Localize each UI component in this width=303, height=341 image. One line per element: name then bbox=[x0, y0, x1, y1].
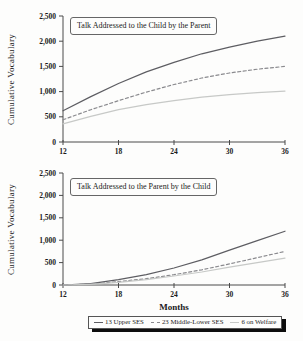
y-tick-label: 2,000 bbox=[39, 191, 56, 200]
legend-label-welfare: 6 on Welfare bbox=[241, 319, 276, 326]
y-tick-label: 2,000 bbox=[39, 37, 56, 46]
chart-title-bottom: Talk Addressed to the Parent by the Chil… bbox=[70, 178, 217, 196]
x-tick-label: 24 bbox=[170, 290, 178, 299]
series-line-23-middle-lower-ses bbox=[63, 251, 285, 285]
legend-line-sample-upper-ses-icon bbox=[94, 322, 103, 323]
series-line-6-on-welfare bbox=[63, 91, 285, 124]
x-tick-label: 30 bbox=[226, 147, 234, 156]
x-tick-label: 18 bbox=[115, 147, 123, 156]
y-axis-label-top: Cumulative Vocabulary bbox=[5, 0, 18, 160]
y-tick-label: 1,500 bbox=[39, 213, 56, 222]
series-line-13-upper-ses bbox=[63, 231, 285, 285]
x-tick-label: 12 bbox=[59, 147, 67, 156]
x-tick-label: 36 bbox=[281, 290, 289, 299]
series-line-6-on-welfare bbox=[63, 258, 285, 285]
x-tick-label: 24 bbox=[170, 147, 178, 156]
y-axis-label-bottom: Cumulative Vocabulary bbox=[5, 150, 18, 310]
legend-item-upper-ses: 13 Upper SES bbox=[94, 319, 144, 326]
x-tick-label: 36 bbox=[281, 147, 289, 156]
y-tick-label: 1,000 bbox=[39, 236, 56, 245]
x-tick-label: 30 bbox=[226, 290, 234, 299]
series-line-23-middle-lower-ses bbox=[63, 66, 285, 119]
legend-label-middle-lower-ses: 23 Middle-Lower SES bbox=[162, 319, 224, 326]
y-tick-label: 500 bbox=[45, 112, 57, 121]
y-tick-label: 500 bbox=[45, 258, 57, 267]
x-tick-label: 12 bbox=[59, 290, 67, 299]
y-tick-label: 1,000 bbox=[39, 87, 56, 96]
legend-line-sample-middle-lower-ses-icon bbox=[151, 322, 160, 323]
y-tick-label: 2,500 bbox=[39, 12, 56, 21]
legend-line-sample-welfare-icon bbox=[230, 322, 239, 323]
x-tick-label: 18 bbox=[115, 290, 123, 299]
y-tick-label: 0 bbox=[52, 281, 56, 290]
x-axis-label-months: Months bbox=[63, 302, 285, 312]
vocabulary-growth-figure: 05001,0001,5002,0002,5001218243036 Cumul… bbox=[0, 0, 303, 341]
chart-title-top: Talk Addressed to the Child by the Paren… bbox=[70, 17, 217, 35]
legend-item-welfare: 6 on Welfare bbox=[230, 319, 276, 326]
y-tick-label: 0 bbox=[52, 138, 56, 147]
legend-label-upper-ses: 13 Upper SES bbox=[105, 319, 144, 326]
y-tick-label: 1,500 bbox=[39, 62, 56, 71]
series-line-13-upper-ses bbox=[63, 36, 285, 111]
legend-item-middle-lower-ses: 23 Middle-Lower SES bbox=[151, 319, 224, 326]
legend: 13 Upper SES 23 Middle-Lower SES 6 on We… bbox=[88, 316, 282, 329]
y-tick-label: 2,500 bbox=[39, 169, 56, 178]
